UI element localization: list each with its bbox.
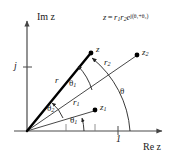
real-axis-label: Re z [143,142,161,152]
point-label-z1: z1 [100,103,107,112]
point-label-z: z [96,45,100,54]
point-marker-z2 [135,53,140,58]
arc-theta1-upper [78,66,92,90]
formula-expression: z=r1r2ej(θ₁+θ₂) [103,13,149,23]
magnitude-label-r: r [55,76,59,85]
angle-label-theta1-lower: θ1 [70,116,77,125]
imaginary-axis-label: Im z [37,12,55,22]
point-markers [89,51,140,113]
formula-exponent: j(θ₁+θ₂) [130,13,148,19]
magnitude-label-r1: r1 [73,98,80,107]
real-tick-label: 1 [116,134,121,144]
imaginary-tick-label: j [14,61,17,71]
complex-plane-figure: z=r1r2ej(θ₁+θ₂) Im z Re z j 1 z z2 z1 r … [0,0,188,161]
point-marker-z1 [93,108,98,113]
point-marker-z [89,51,94,56]
vector-z-bold [27,54,90,131]
angle-label-theta1-upper: θ1 [69,79,76,88]
arc-theta1-lower [82,118,84,131]
angle-label-theta2: θ2 [47,104,54,113]
formula-equals: = [106,12,114,22]
magnitude-label-r2: r2 [104,58,111,67]
figure-canvas [0,0,188,161]
point-label-z2: z2 [142,48,149,57]
angle-label-theta: θ [120,87,124,96]
